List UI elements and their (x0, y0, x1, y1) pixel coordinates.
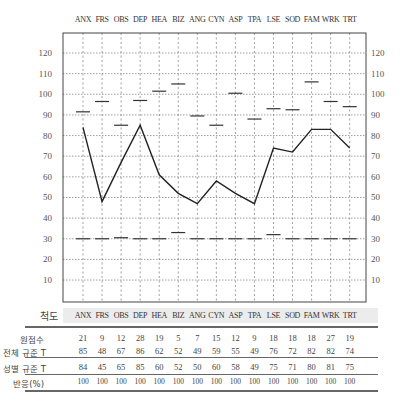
category-label-top: SOD (285, 15, 301, 24)
table-cell: 19 (149, 333, 169, 343)
table-cell: 15 (206, 333, 226, 343)
y-tick-left: 50 (43, 192, 53, 202)
category-label-top: ANX (75, 15, 92, 24)
table-cell: 19 (340, 333, 360, 343)
y-tick-right: 90 (371, 110, 381, 120)
table-rule-mid2 (25, 374, 378, 375)
table-cell: 9 (92, 333, 112, 343)
table-cell: 100 (302, 377, 322, 386)
table-cell: 5 (168, 333, 188, 343)
table-cell: 49 (187, 346, 207, 356)
y-tick-right: 110 (371, 69, 385, 79)
category-label-top: CYN (208, 15, 225, 24)
table-cell: 100 (225, 377, 245, 386)
y-tick-right: 40 (371, 213, 381, 223)
table-cell: 60 (206, 362, 226, 372)
table-rule-bottom (25, 390, 378, 392)
table-cell: 28 (130, 333, 150, 343)
table-cell: 59 (206, 346, 226, 356)
y-tick-right: 20 (371, 254, 381, 264)
table-cell: 75 (340, 362, 360, 372)
table-cell: 100 (92, 377, 112, 386)
table-cell: 100 (73, 377, 93, 386)
table-cell: 100 (168, 377, 188, 386)
table-cell: 85 (73, 346, 93, 356)
y-tick-left: 10 (43, 275, 53, 285)
category-label-top: BIZ (172, 15, 184, 24)
table-cell: 18 (264, 333, 284, 343)
table-cell: 86 (130, 346, 150, 356)
table-cell: 71 (283, 362, 303, 372)
table-cell: 49 (244, 346, 264, 356)
table-cell: 72 (283, 346, 303, 356)
scale-header-trt: TRT (338, 311, 362, 320)
table-cell: 58 (225, 362, 245, 372)
table-cell: 74 (340, 346, 360, 356)
table-cell: 62 (149, 346, 169, 356)
table-rule-top (25, 326, 378, 328)
table-cell: 27 (321, 333, 341, 343)
table-cell: 18 (302, 333, 322, 343)
scale-row-label: 척도 (40, 308, 58, 323)
table-cell: 12 (111, 333, 131, 343)
table-cell: 52 (168, 362, 188, 372)
table-row-label: 반응(%) (0, 377, 44, 389)
table-cell: 65 (111, 362, 131, 372)
table-cell: 75 (264, 362, 284, 372)
table-cell: 100 (340, 377, 360, 386)
table-cell: 100 (130, 377, 150, 386)
table-cell: 18 (283, 333, 303, 343)
table-cell: 48 (92, 346, 112, 356)
y-tick-left: 70 (43, 151, 53, 161)
category-label-top: DEP (133, 15, 148, 24)
y-tick-left: 80 (43, 131, 53, 141)
table-cell: 82 (321, 346, 341, 356)
category-label-top: WRK (322, 15, 340, 24)
y-tick-right: 30 (371, 234, 381, 244)
y-tick-left: 40 (43, 213, 53, 223)
y-tick-left: 110 (39, 69, 53, 79)
table-cell: 100 (149, 377, 169, 386)
table-cell: 50 (187, 362, 207, 372)
y-tick-left: 90 (43, 110, 53, 120)
table-cell: 21 (73, 333, 93, 343)
table-cell: 100 (206, 377, 226, 386)
category-label-top: OBS (114, 15, 129, 24)
table-cell: 85 (130, 362, 150, 372)
table-cell: 100 (111, 377, 131, 386)
y-tick-right: 10 (371, 275, 381, 285)
table-cell: 67 (111, 346, 131, 356)
y-tick-left: 30 (43, 234, 53, 244)
category-label-top: ANG (189, 15, 206, 24)
table-cell: 100 (321, 377, 341, 386)
table-cell: 81 (321, 362, 341, 372)
y-tick-right: 60 (371, 172, 381, 182)
y-tick-left: 100 (39, 89, 53, 99)
table-cell: 76 (264, 346, 284, 356)
category-label-top: TRT (343, 15, 357, 24)
table-cell: 100 (244, 377, 264, 386)
table-cell: 84 (73, 362, 93, 372)
table-row-label: 원점수 (0, 333, 44, 345)
table-row-label: 전체 규준 T (0, 346, 46, 358)
category-label-top: ASP (229, 15, 244, 24)
y-tick-left: 60 (43, 172, 53, 182)
table-cell: 80 (302, 362, 322, 372)
table-cell: 52 (168, 346, 188, 356)
table-cell: 9 (244, 333, 264, 343)
y-tick-right: 80 (371, 131, 381, 141)
y-tick-right: 70 (371, 151, 381, 161)
y-tick-left: 120 (39, 48, 53, 58)
table-cell: 100 (264, 377, 284, 386)
table-cell: 100 (283, 377, 303, 386)
category-label-top: FRS (95, 15, 108, 24)
table-cell: 100 (187, 377, 207, 386)
table-cell: 45 (92, 362, 112, 372)
category-label-top: LSE (267, 15, 281, 24)
table-cell: 49 (244, 362, 264, 372)
table-rule-mid1 (25, 357, 378, 358)
table-cell: 82 (302, 346, 322, 356)
table-row-label: 성별 규준 T (0, 362, 46, 374)
category-label-top: FAM (304, 15, 320, 24)
category-label-top: HEA (151, 15, 167, 24)
